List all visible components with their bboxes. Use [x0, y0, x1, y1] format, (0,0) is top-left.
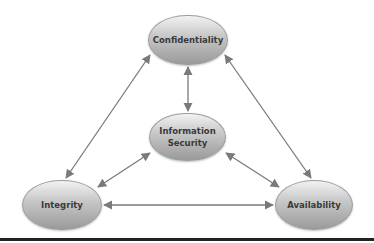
node-availability: Availability	[275, 180, 353, 230]
edge-confidentiality-availability	[225, 55, 311, 178]
node-information-security: Information Security	[149, 113, 226, 161]
edge-infosec-integrity	[98, 153, 150, 187]
node-label-line1: Information	[159, 125, 215, 137]
edge-infosec-availability	[226, 153, 279, 187]
node-confidentiality: Confidentiality	[148, 15, 228, 65]
node-label: Availability	[287, 199, 341, 211]
bottom-divider	[0, 238, 374, 241]
node-label: Confidentiality	[153, 34, 223, 46]
node-label-line2: Security	[159, 137, 215, 149]
cia-triad-diagram: Confidentiality Information Security Int…	[0, 0, 374, 243]
node-label: Integrity	[41, 199, 83, 211]
node-integrity: Integrity	[22, 180, 102, 230]
edge-confidentiality-integrity	[66, 55, 150, 178]
